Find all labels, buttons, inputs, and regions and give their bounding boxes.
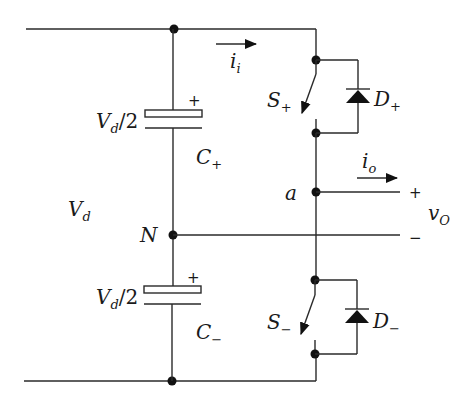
switch-s-plus	[302, 56, 321, 138]
output-minus-sign: −	[409, 229, 422, 247]
diode-top-label: D+	[373, 87, 401, 114]
output-plus-sign: +	[409, 184, 422, 202]
diode-d-minus	[315, 280, 369, 354]
dc-rail-bottom	[24, 354, 316, 386]
neutral-node-label: N	[139, 223, 159, 247]
capacitor-c-plus	[145, 110, 202, 128]
cap-top-voltage-label: Vd/2	[96, 109, 138, 136]
output-voltage-label: vO	[428, 201, 450, 228]
input-current-label: ii	[230, 49, 241, 76]
half-bridge-inverter-diagram: + + Vd/2 Vd/2 C+ C− Vd N a ii io S+ S− D…	[0, 0, 473, 409]
switch-s-minus	[301, 276, 320, 359]
dc-rail-top	[26, 25, 316, 61]
capacitor-c-minus	[144, 286, 201, 304]
cap-top-polarity: +	[188, 92, 201, 110]
dc-voltage-label: Vd	[68, 197, 91, 224]
switch-bottom-label: S−	[267, 310, 292, 337]
junction-dot-top	[170, 25, 179, 34]
cap-bottom-name: C−	[196, 320, 222, 347]
switch-top-label: S+	[267, 88, 292, 115]
output-current-label: io	[362, 149, 376, 176]
capacitor-leg	[144, 29, 202, 381]
cap-bottom-voltage-label: Vd/2	[96, 285, 138, 312]
output-node-label: a	[285, 181, 297, 205]
cap-bottom-polarity: +	[187, 269, 200, 287]
cap-top-name: C+	[196, 145, 222, 172]
diode-bottom-label: D−	[372, 309, 400, 336]
diode-d-plus	[316, 60, 370, 133]
